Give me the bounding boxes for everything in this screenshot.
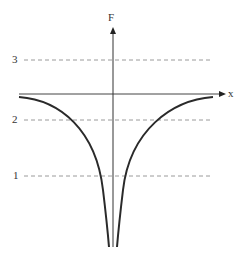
diagram-canvas (0, 0, 245, 257)
y-axis-label: F (108, 12, 114, 23)
level-label-3: 3 (12, 54, 18, 65)
x-axis-label: x (228, 88, 234, 99)
level-label-1: 1 (13, 170, 19, 181)
level-label-2: 2 (12, 114, 18, 125)
potential-diagram: F x 3 2 1 (0, 0, 245, 257)
f-axis-arrow-icon (110, 27, 116, 34)
x-axis-arrow-icon (219, 91, 226, 97)
